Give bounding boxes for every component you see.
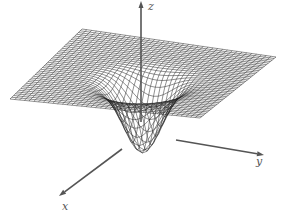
x-axis — [65, 149, 122, 192]
surface-plot — [0, 0, 286, 221]
x-axis-label: x — [62, 200, 68, 213]
z-axis-arrow-icon — [139, 1, 144, 8]
wireframe-mesh — [10, 29, 276, 153]
y-axis — [176, 140, 257, 154]
surface-mesh — [10, 29, 276, 153]
y-axis-label: y — [256, 155, 262, 168]
z-axis-label: z — [148, 0, 154, 13]
